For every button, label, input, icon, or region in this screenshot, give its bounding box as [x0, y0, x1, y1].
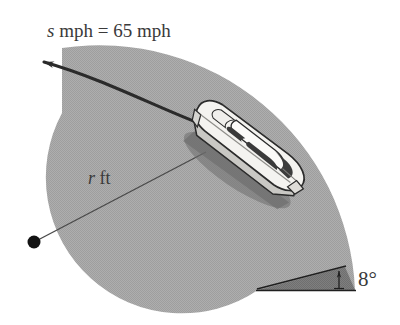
speed-label: s mph = 65 mph — [47, 20, 171, 41]
radius-label: r ft — [88, 168, 111, 188]
center-of-curvature-dot — [28, 236, 41, 249]
banked-curve-figure: 8° r ft s mph = 65 mph — [0, 0, 400, 325]
figure-canvas: 8° r ft s mph = 65 mph — [0, 0, 400, 325]
bank-angle-label: 8° — [358, 267, 377, 291]
